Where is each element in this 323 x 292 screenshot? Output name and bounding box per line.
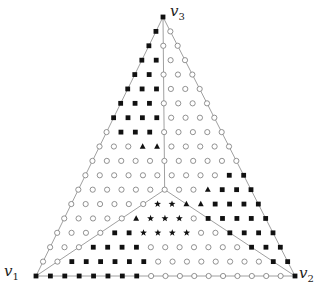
circle-marker [190,101,195,106]
square-marker [206,216,211,221]
square-marker [126,115,131,120]
circle-marker [48,245,53,250]
circle-marker [90,187,95,192]
circle-marker [156,259,161,264]
square-marker [161,15,166,20]
circle-marker [219,130,224,135]
square-marker [69,259,74,264]
circle-marker [76,245,81,250]
circle-marker [206,273,211,278]
star-marker [176,215,183,222]
circle-marker [213,259,218,264]
circle-marker [162,158,167,163]
circle-marker [235,245,240,250]
square-marker [154,115,159,120]
square-marker [285,259,290,264]
square-marker [120,245,125,250]
square-marker [227,173,232,178]
star-marker [183,229,190,236]
circle-marker [170,259,175,264]
circle-marker [111,144,116,149]
square-marker [154,87,159,92]
circle-marker [278,273,283,278]
circle-marker [105,216,110,221]
circle-marker [184,173,189,178]
square-marker [220,187,225,192]
circle-marker [147,158,152,163]
square-marker [213,202,218,207]
square-marker [220,216,225,221]
circle-marker [190,72,195,77]
circle-marker [228,259,233,264]
square-marker [133,101,138,106]
square-marker [256,202,261,207]
triangle-edges [36,17,295,276]
circle-marker [97,201,102,206]
circle-marker [76,216,81,221]
square-marker [120,274,125,279]
circle-marker [182,58,187,63]
circle-marker [40,259,45,264]
star-marker [154,229,161,236]
square-marker [98,259,103,264]
circle-marker [191,158,196,163]
circle-marker [155,173,160,178]
square-marker [106,274,111,279]
square-marker [234,216,239,221]
circle-marker [83,173,88,178]
square-marker [234,187,239,192]
circle-marker [105,187,110,192]
triangle-marker [183,201,189,206]
circle-marker [198,173,203,178]
circle-marker [204,101,209,106]
circle-marker [177,245,182,250]
star-marker [154,200,161,207]
circle-marker [177,273,182,278]
circle-marker [198,144,203,149]
square-marker [147,101,152,106]
square-marker [241,173,246,178]
square-marker [293,274,298,279]
circle-marker [168,29,173,34]
circle-marker [168,86,173,91]
square-marker [147,130,152,135]
circle-marker [161,72,166,77]
square-marker [91,245,96,250]
square-marker [146,43,151,48]
circle-marker [62,216,67,221]
circle-marker [212,144,217,149]
vertex-label-v3: v3 [170,2,185,22]
square-marker [127,259,132,264]
square-marker [141,259,146,264]
circle-marker [212,173,217,178]
circle-marker [183,115,188,120]
circle-marker [90,158,95,163]
square-marker [242,202,247,207]
circle-marker [234,158,239,163]
triangle-marker [140,143,146,148]
circle-marker [69,201,74,206]
circle-marker [249,273,254,278]
triangle-marker [154,143,160,148]
circle-marker [256,259,261,264]
square-marker [242,230,247,235]
square-marker [271,230,276,235]
circle-marker [161,43,166,48]
circle-marker [183,86,188,91]
square-marker [48,274,53,279]
circle-marker [184,259,189,264]
circle-marker [162,130,167,135]
triangle-marker [133,215,139,220]
square-marker [77,274,82,279]
circle-marker [176,158,181,163]
circle-marker [104,130,109,135]
circle-marker [226,144,231,149]
circle-marker [149,273,154,278]
circle-marker [112,201,117,206]
square-marker [119,130,124,135]
circle-marker [175,43,180,48]
circle-marker [191,187,196,192]
lattice-markers [34,15,298,279]
circle-marker [191,245,196,250]
circle-marker [190,130,195,135]
